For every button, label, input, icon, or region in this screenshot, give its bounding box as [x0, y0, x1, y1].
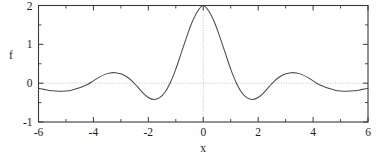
- x-tick-labels: -6-4-20246: [34, 126, 371, 138]
- y-tick-label: 1: [27, 38, 33, 50]
- chart-figure: -6-4-20246 -1012 f x: [0, 0, 381, 155]
- gridlines: [39, 6, 369, 123]
- y-tick-label: 0: [27, 77, 33, 89]
- x-tick-label: -4: [89, 126, 99, 138]
- x-tick-label: 0: [200, 126, 206, 138]
- x-tick-label: 6: [365, 126, 371, 138]
- y-tick-labels: -1012: [23, 0, 33, 128]
- y-axis-label: f: [9, 49, 13, 61]
- x-tick-label: 4: [310, 126, 316, 138]
- plot-svg: -6-4-20246 -1012 f x: [0, 0, 381, 155]
- y-tick-label: 2: [27, 0, 33, 12]
- x-tick-label: -6: [34, 126, 44, 138]
- y-tick-label: -1: [23, 116, 33, 128]
- x-axis-label: x: [200, 142, 206, 154]
- x-tick-label: -2: [144, 126, 154, 138]
- x-tick-label: 2: [255, 126, 261, 138]
